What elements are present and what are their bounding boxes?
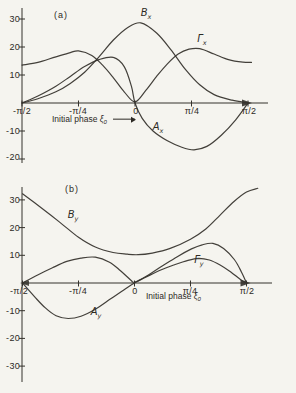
b-ytick--20: -20: [6, 334, 20, 343]
b-ytick-30: 30: [9, 196, 20, 205]
b-ytick-20: 20: [9, 224, 20, 233]
plot-canvas: [0, 0, 296, 393]
curve-By: [23, 188, 258, 254]
b-xtick-neg-pi2: -π/2: [10, 287, 28, 296]
curve-Bx: [22, 23, 248, 103]
b-ytick--30: -30: [6, 362, 20, 371]
a-ytick-10: 10: [9, 71, 20, 80]
a-xtick-neg-pi2: -π/2: [13, 107, 31, 116]
curve-Gamma_x: [22, 48, 252, 102]
curve-label-Bx: Bx: [141, 8, 152, 21]
panel-b-tag: (b): [65, 185, 79, 194]
a-xtick-pi4: π/4: [185, 107, 200, 116]
b-x-axis-label: Initial phase ξ0: [146, 292, 201, 303]
a-ytick--10: -10: [6, 127, 20, 136]
b-xtick-pi2: π/2: [240, 287, 255, 296]
panel-a-tag: (a): [54, 11, 68, 20]
right-arrow-icon: [113, 119, 135, 120]
a-xtick-pi2: π/2: [242, 107, 257, 116]
b-xtick-neg-pi4: -π/4: [69, 287, 87, 296]
b-ytick-10: 10: [9, 251, 20, 260]
curve-label-By: By: [68, 210, 79, 223]
a-ytick-20: 20: [9, 43, 20, 52]
a-x-axis-label: Initial phase ξ0: [52, 115, 135, 126]
b-ytick--10: -10: [6, 307, 20, 316]
curve-label-Gamma-x: Γx: [197, 34, 206, 47]
curve-Gamma_y: [23, 257, 247, 283]
a-ytick-30: 30: [9, 15, 20, 24]
b-xtick-0: 0: [132, 287, 137, 296]
a-ytick--20: -20: [6, 153, 20, 162]
scanned-figure-page: (a) 30 20 10 -10 -20 -π/2 -π/4 0 π/4 π/2…: [0, 0, 296, 393]
curve-label-Ay: Ay: [91, 307, 102, 320]
curve-label-Ax: Ax: [153, 122, 164, 135]
curve-label-Gamma-y: Γy: [194, 255, 203, 268]
